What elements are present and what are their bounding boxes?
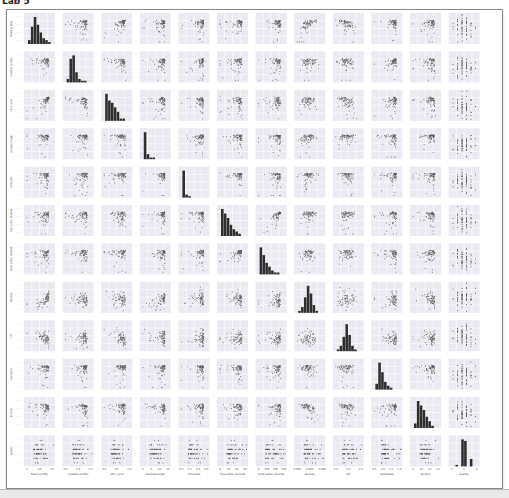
panel-7-8 — [333, 282, 364, 313]
panel-7-9 — [371, 282, 402, 313]
y-tick-label: — — [18, 461, 21, 464]
panel-8-5 — [217, 320, 248, 351]
y-tick-label: — — [18, 138, 21, 141]
x-axis-label: density — [305, 472, 316, 476]
panel-3-0 — [24, 128, 55, 159]
x-tick-label: 10 — [420, 468, 424, 471]
panel-10-11 — [449, 397, 480, 428]
panel-11-8 — [333, 435, 364, 466]
x-axis-label: volatile acidity — [68, 472, 89, 476]
panel-1-10 — [410, 51, 441, 82]
panel-0-5 — [217, 13, 248, 44]
panel-7-6 — [256, 282, 287, 313]
x-tick-label: 0.6 — [204, 468, 208, 471]
y-axis-label: sulphates — [10, 367, 13, 380]
panel-7-4 — [178, 282, 209, 313]
panel-9-3 — [140, 359, 171, 390]
panel-8-10 — [410, 320, 441, 351]
y-tick-label: — — [18, 223, 21, 226]
x-tick-label: 0 — [219, 468, 221, 471]
x-tick-label: 8 — [476, 468, 478, 471]
panel-8-7 — [294, 320, 325, 351]
y-axis-label: total sulfur dioxide — [10, 246, 13, 271]
panel-11-3 — [140, 435, 171, 466]
panel-10-2 — [101, 397, 132, 428]
x-tick-label: 100 — [264, 468, 269, 471]
y-axis-label: quality — [10, 446, 13, 455]
panel-10-7 — [294, 397, 325, 428]
y-tick-label: — — [18, 245, 21, 248]
panel-9-1 — [63, 359, 94, 390]
panel-8-1 — [63, 320, 94, 351]
x-tick-label: 1.0 — [381, 468, 385, 471]
panel-9-11 — [449, 359, 480, 390]
panel-3-9 — [371, 128, 402, 159]
y-axis-label: free sulfur dioxide — [10, 208, 13, 232]
panel-2-8 — [333, 90, 364, 121]
panel-1-8 — [333, 51, 364, 82]
panel-8-4 — [178, 320, 209, 351]
bottom-scrollbar[interactable] — [0, 489, 509, 498]
y-tick-label: — — [18, 308, 21, 311]
y-tick-label: — — [18, 61, 21, 64]
panel-4-0 — [24, 167, 55, 198]
x-tick-label: 8 — [412, 468, 414, 471]
panel-8-6 — [256, 320, 287, 351]
panel-4-1 — [63, 167, 94, 198]
panel-11-5 — [217, 435, 248, 466]
panel-1-6 — [256, 51, 287, 82]
panel-0-1 — [63, 13, 94, 44]
y-tick-label: — — [18, 300, 21, 303]
y-axis-label: alcohol — [10, 408, 13, 418]
panel-11-0 — [24, 435, 55, 466]
panel-3-6 — [256, 128, 287, 159]
panel-5-5 — [217, 205, 248, 236]
y-tick-label: — — [18, 361, 21, 364]
panel-6-9 — [371, 243, 402, 274]
panel-5-11 — [449, 205, 480, 236]
panel-3-8 — [333, 128, 364, 159]
y-tick-label: — — [18, 253, 21, 256]
panel-6-2 — [101, 243, 132, 274]
y-tick-label: — — [18, 385, 21, 388]
panel-6-7 — [294, 243, 325, 274]
y-tick-label: — — [18, 322, 21, 325]
panel-5-3 — [140, 205, 171, 236]
x-tick-label: 1.0 — [127, 468, 131, 471]
panel-6-1 — [63, 243, 94, 274]
panel-0-10 — [410, 13, 441, 44]
x-tick-label: 1.5 — [89, 468, 93, 471]
panel-5-10 — [410, 205, 441, 236]
panel-6-3 — [140, 243, 171, 274]
panel-11-1 — [63, 435, 94, 466]
panel-5-0 — [24, 205, 55, 236]
y-tick-label: — — [18, 338, 21, 341]
y-tick-label: — — [18, 445, 21, 448]
x-axis-label: pH — [346, 472, 350, 476]
y-tick-label: — — [18, 130, 21, 133]
y-tick-label: — — [18, 53, 21, 56]
panel-1-0 — [24, 51, 55, 82]
panel-4-3 — [140, 167, 171, 198]
panel-3-11 — [449, 128, 480, 159]
panel-6-5 — [217, 243, 248, 274]
panel-6-10 — [410, 243, 441, 274]
y-tick-label: — — [18, 39, 21, 42]
y-tick-label: — — [18, 31, 21, 34]
y-tick-label: — — [18, 185, 21, 188]
panel-4-10 — [410, 167, 441, 198]
y-tick-label: — — [18, 453, 21, 456]
x-tick-label: 12 — [428, 468, 432, 471]
panel-11-7 — [294, 435, 325, 466]
panel-1-9 — [371, 51, 402, 82]
panel-8-3 — [140, 320, 171, 351]
y-tick-label: — — [18, 330, 21, 333]
panel-7-10 — [410, 282, 441, 313]
x-axis-label: quality — [459, 472, 469, 476]
panel-3-7 — [294, 128, 325, 159]
panel-10-6 — [256, 397, 287, 428]
y-tick-label: — — [18, 108, 21, 111]
x-tick-label: 1.5 — [389, 468, 393, 471]
panel-6-4 — [178, 243, 209, 274]
panel-0-4 — [178, 13, 209, 44]
